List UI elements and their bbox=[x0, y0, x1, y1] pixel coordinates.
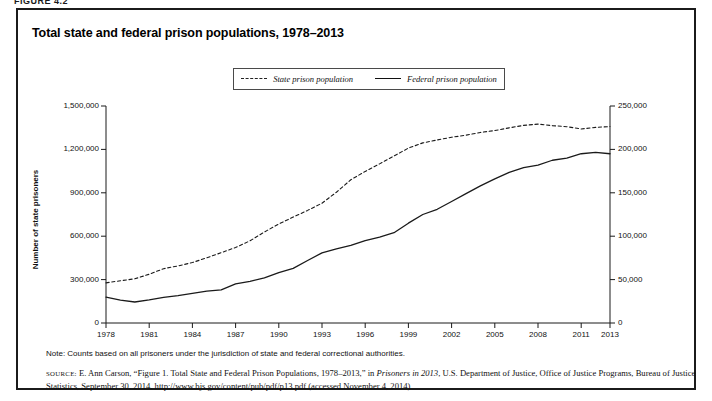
y-tick-left-4: 1,200,000 bbox=[39, 144, 99, 153]
source-part-1: E. Ann Carson, “Figure 1. Total State an… bbox=[77, 368, 377, 378]
y-tick-right-3: 150,000 bbox=[618, 188, 678, 197]
figure-label: FIGURE 4.2 bbox=[14, 0, 68, 6]
x-tick-3: 1987 bbox=[216, 330, 256, 339]
x-tick-12: 2013 bbox=[590, 330, 630, 339]
x-tick-5: 1993 bbox=[302, 330, 342, 339]
source-italic-title: Prisoners in 2013 bbox=[377, 368, 439, 378]
y-tick-left-0: 0 bbox=[39, 318, 99, 327]
y-tick-right-4: 200,000 bbox=[618, 144, 678, 153]
x-tick-10: 2008 bbox=[518, 330, 558, 339]
x-tick-2: 1984 bbox=[172, 330, 212, 339]
series-line-federal-prison-population bbox=[106, 152, 610, 302]
y-tick-left-3: 900,000 bbox=[39, 188, 99, 197]
chart-note: Note: Counts based on all prisoners unde… bbox=[46, 349, 405, 358]
x-tick-0: 1978 bbox=[86, 330, 126, 339]
series-line-state-prison-population bbox=[106, 124, 610, 283]
chart-source: source: E. Ann Carson, “Figure 1. Total … bbox=[46, 367, 700, 392]
source-kicker: source: bbox=[46, 370, 77, 377]
y-axis-left-title: Number of state prisoners bbox=[31, 155, 40, 285]
figure-panel: Total state and federal prison populatio… bbox=[16, 8, 696, 390]
y-tick-right-1: 50,000 bbox=[618, 275, 678, 284]
y-tick-right-2: 100,000 bbox=[618, 231, 678, 240]
y-tick-left-1: 300,000 bbox=[39, 275, 99, 284]
y-tick-left-2: 600,000 bbox=[39, 231, 99, 240]
x-tick-4: 1990 bbox=[259, 330, 299, 339]
y-tick-left-5: 1,500,000 bbox=[39, 101, 99, 110]
x-tick-9: 2005 bbox=[475, 330, 515, 339]
y-tick-right-0: 0 bbox=[618, 318, 678, 327]
y-tick-right-5: 250,000 bbox=[618, 101, 678, 110]
x-tick-7: 1999 bbox=[388, 330, 428, 339]
x-tick-8: 2002 bbox=[432, 330, 472, 339]
x-tick-1: 1981 bbox=[129, 330, 169, 339]
x-tick-6: 1996 bbox=[345, 330, 385, 339]
